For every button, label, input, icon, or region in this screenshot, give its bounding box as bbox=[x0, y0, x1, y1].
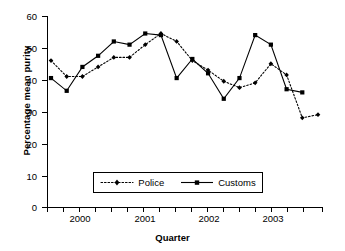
data-point bbox=[96, 54, 100, 58]
data-point bbox=[237, 76, 241, 80]
series-line-police bbox=[51, 34, 318, 118]
data-point bbox=[127, 43, 131, 47]
line-chart: Percentage mean purity Quarter 60 50 40 … bbox=[0, 0, 345, 251]
series-markers-police bbox=[49, 31, 321, 120]
legend-label-police: Police bbox=[138, 177, 164, 188]
data-point bbox=[49, 76, 53, 80]
data-point bbox=[316, 112, 321, 117]
data-point bbox=[175, 76, 179, 80]
data-point bbox=[222, 97, 226, 101]
data-point bbox=[49, 58, 54, 63]
data-point bbox=[65, 89, 69, 93]
legend-swatch-police-icon bbox=[100, 178, 134, 187]
data-point bbox=[284, 87, 288, 91]
data-point bbox=[253, 33, 257, 37]
data-point bbox=[64, 74, 69, 79]
data-point bbox=[80, 65, 84, 69]
data-point bbox=[112, 39, 116, 43]
data-point bbox=[143, 31, 147, 35]
data-point bbox=[96, 65, 101, 70]
legend-item-police: Police bbox=[100, 177, 164, 188]
legend-item-customs: Customs bbox=[180, 177, 255, 188]
data-point bbox=[237, 85, 242, 90]
series-layer bbox=[0, 0, 345, 251]
data-point bbox=[174, 39, 179, 44]
data-point bbox=[80, 74, 85, 79]
legend: Police Customs bbox=[93, 172, 263, 193]
legend-swatch-customs-icon bbox=[180, 178, 214, 187]
data-point bbox=[112, 55, 117, 60]
data-point bbox=[300, 115, 305, 120]
legend-label-customs: Customs bbox=[218, 177, 255, 188]
data-point bbox=[269, 43, 273, 47]
data-point bbox=[300, 90, 304, 94]
